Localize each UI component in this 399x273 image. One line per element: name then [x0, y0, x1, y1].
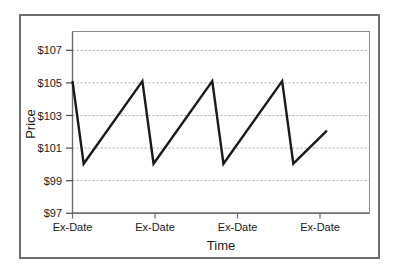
ytick-label-101: $101	[38, 142, 62, 154]
xtick-label-exdate-3: Ex-Date	[218, 221, 258, 233]
x-axis-title: Time	[207, 238, 235, 253]
ytick-label-103: $103	[38, 110, 62, 122]
plot-background	[73, 32, 370, 214]
xtick-label-exdate-2: Ex-Date	[135, 221, 175, 233]
price-sawtooth-chart: $107 $105 $103 $101 $99 $97 Ex-Date Ex-D…	[0, 0, 399, 273]
xtick-label-exdate-1: Ex-Date	[53, 221, 93, 233]
figure-container: $107 $105 $103 $101 $99 $97 Ex-Date Ex-D…	[0, 0, 399, 273]
y-axis-ticks	[66, 50, 73, 213]
xtick-label-exdate-4: Ex-Date	[300, 221, 340, 233]
ytick-label-107: $107	[38, 44, 62, 56]
ytick-label-99: $99	[44, 175, 62, 187]
x-axis-ticks	[73, 213, 321, 218]
y-axis-title: Price	[23, 109, 38, 139]
ytick-label-105: $105	[38, 77, 62, 89]
ytick-label-97: $97	[44, 207, 62, 219]
